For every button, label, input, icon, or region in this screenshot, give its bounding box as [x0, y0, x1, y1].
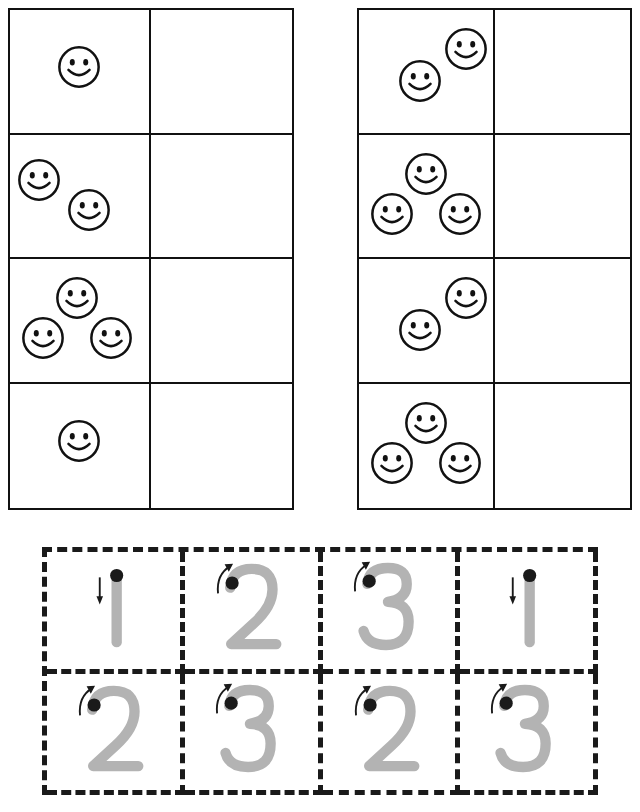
trace-digit-3-icon: [323, 552, 456, 669]
counting-table-right: [357, 8, 632, 510]
smiley-face-icon: [56, 418, 102, 464]
smiley-face-icon: [369, 440, 415, 486]
count-picture-cell: [359, 10, 495, 135]
smiley-group: [10, 10, 149, 133]
smiley-group: [10, 259, 149, 382]
smiley-group: [359, 135, 493, 258]
trace-digit-2-icon: [47, 674, 180, 791]
trace-cell-1[interactable]: [460, 552, 598, 674]
smiley-group: [359, 259, 493, 382]
smiley-face-icon: [20, 315, 66, 361]
trace-cell-2[interactable]: [47, 674, 185, 796]
trace-digit-1-icon: [47, 552, 180, 669]
smiley-group: [359, 384, 493, 509]
smiley-face-icon: [16, 157, 62, 203]
smiley-group: [10, 135, 149, 258]
count-answer-cell[interactable]: [495, 10, 631, 135]
smiley-face-icon: [443, 275, 489, 321]
trace-cell-2[interactable]: [185, 552, 323, 674]
count-answer-cell[interactable]: [495, 384, 631, 509]
trace-digit-3-icon: [185, 674, 318, 791]
count-picture-cell: [359, 259, 495, 384]
smiley-face-icon: [397, 307, 443, 353]
smiley-face-icon: [56, 44, 102, 90]
count-answer-cell[interactable]: [495, 135, 631, 260]
count-answer-cell[interactable]: [151, 259, 292, 384]
trace-cell-1[interactable]: [47, 552, 185, 674]
smiley-face-icon: [437, 191, 483, 237]
smiley-face-icon: [397, 58, 443, 104]
count-answer-cell[interactable]: [151, 10, 292, 135]
smiley-face-icon: [369, 191, 415, 237]
trace-cell-3[interactable]: [185, 674, 323, 796]
trace-digit-2-icon: [185, 552, 318, 669]
smiley-face-icon: [88, 315, 134, 361]
smiley-face-icon: [437, 440, 483, 486]
count-picture-cell: [10, 10, 151, 135]
count-answer-cell[interactable]: [495, 259, 631, 384]
trace-digit-3-icon: [460, 674, 593, 791]
tracing-grid: [42, 547, 598, 795]
trace-cell-3[interactable]: [323, 552, 461, 674]
count-picture-cell: [359, 384, 495, 509]
trace-cell-3[interactable]: [460, 674, 598, 796]
smiley-group: [10, 384, 149, 509]
smiley-face-icon: [443, 26, 489, 72]
count-answer-cell[interactable]: [151, 135, 292, 260]
smiley-face-icon: [66, 187, 112, 233]
count-picture-cell: [10, 259, 151, 384]
counting-table-left: [8, 8, 294, 510]
count-picture-cell: [10, 384, 151, 509]
count-picture-cell: [359, 135, 495, 260]
count-picture-cell: [10, 135, 151, 260]
trace-digit-2-icon: [323, 674, 456, 791]
smiley-group: [359, 10, 493, 133]
count-answer-cell[interactable]: [151, 384, 292, 509]
trace-digit-1-icon: [460, 552, 593, 669]
trace-cell-2[interactable]: [323, 674, 461, 796]
